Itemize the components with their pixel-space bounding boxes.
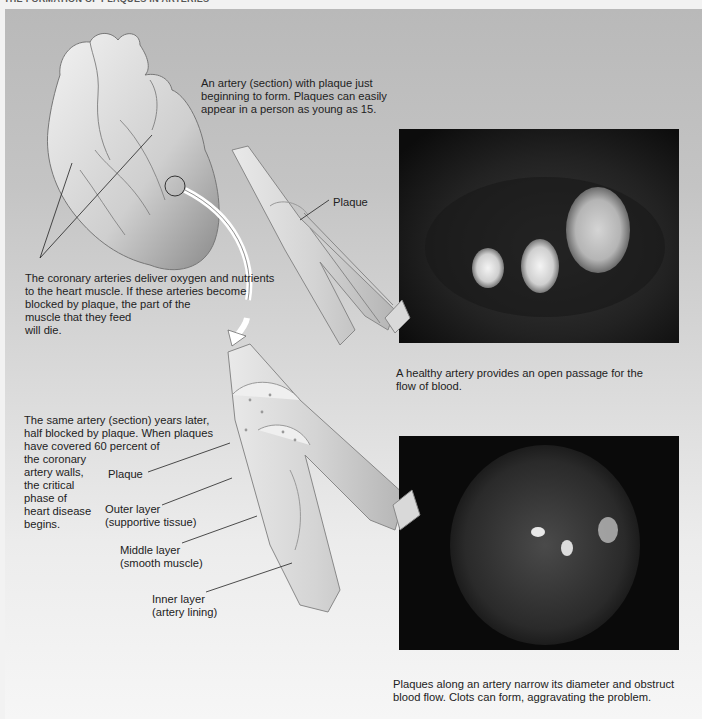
label-inner-layer: Inner layer (artery lining) [152, 593, 217, 619]
heart-illustration [47, 33, 219, 269]
caption-healthy-photo: A healthy artery provides an open passag… [396, 367, 696, 393]
caption-early-plaque: An artery (section) with plaque just beg… [201, 77, 441, 116]
caption-coronary-arteries: The coronary arteries deliver oxygen and… [25, 272, 315, 337]
healthy-artery-photo [399, 129, 679, 343]
figure-page: THE FORMATION OF PLAQUES IN ARTERIES [0, 0, 702, 719]
label-plaque-top: Plaque [333, 196, 368, 209]
label-middle-layer: Middle layer (smooth muscle) [120, 544, 203, 570]
label-outer-layer: Outer layer (supportive tissue) [105, 503, 196, 529]
blocked-artery-illustration [228, 344, 405, 612]
plaque-artery-photo [399, 436, 679, 650]
caption-plaque-photo: Plaques along an artery narrow its diame… [393, 678, 698, 704]
label-plaque-bottom: Plaque [108, 468, 143, 481]
inner-layer-pointer [206, 563, 292, 592]
